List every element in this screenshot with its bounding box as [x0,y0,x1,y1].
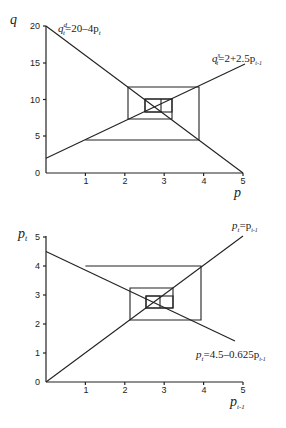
top-y-tick-0: 0 [35,168,40,178]
top-x-tick-3: 3 [161,176,166,186]
top-y-tick-20: 20 [30,21,40,31]
top-x-axis-label: p [233,185,241,200]
bottom-chart: 0 1 2 3 4 5 1 2 3 4 5 pt pt-1 pt=pt-1 pt… [17,219,266,411]
top-y-tick-10: 10 [30,95,40,105]
top-chart: 0 5 10 15 20 1 2 3 4 5 q p qdt=20–4pt qs… [10,12,262,200]
cobweb-figure: 0 5 10 15 20 1 2 3 4 5 q p qdt=20–4pt qs… [0,0,286,428]
bottom-y-tick-2: 2 [35,319,40,329]
bottom-x-tick-5: 5 [240,385,245,395]
identity-line [46,236,243,382]
top-x-tick-2: 2 [122,176,127,186]
map-line [46,252,235,342]
bottom-y-tick-0: 0 [35,377,40,387]
top-x-tick-4: 4 [201,176,206,186]
bottom-y-axis-label: pt [17,226,28,243]
demand-label: qdt=20–4pt [58,21,102,37]
top-y-tick-15: 15 [30,58,40,68]
bottom-y-tick-5: 5 [35,232,40,242]
bottom-x-tick-2: 2 [122,385,127,395]
identity-label: pt=pt-1 [231,219,258,234]
top-x-tick-5: 5 [240,176,245,186]
bottom-y-tick-3: 3 [35,290,40,300]
bottom-x-tick-4: 4 [201,385,206,395]
top-y-axis-label: q [10,12,17,27]
supply-label: qst=2+2.5pt-1 [212,51,262,67]
bottom-x-tick-1: 1 [83,385,88,395]
bottom-cobweb-path [85,266,201,320]
bottom-y-tick-1: 1 [35,348,40,358]
top-x-tick-1: 1 [83,176,88,186]
map-label: pt=4.5–0.625pt-1 [195,348,266,363]
bottom-x-tick-3: 3 [161,385,166,395]
bottom-y-tick-4: 4 [35,261,40,271]
bottom-x-axis-label: pt-1 [229,394,245,411]
top-y-tick-5: 5 [35,131,40,141]
